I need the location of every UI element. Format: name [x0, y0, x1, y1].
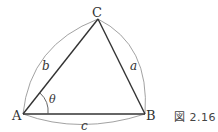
vertex-label-a: A	[12, 109, 21, 122]
vertex-label-c: C	[92, 6, 102, 19]
vertex-label-b: B	[146, 109, 156, 122]
figure-caption: 図 2.16	[174, 108, 216, 124]
side-label-c: c	[81, 120, 88, 132]
angle-label-theta: θ	[49, 94, 56, 105]
angle-arc-theta	[40, 93, 48, 114]
side-label-a: a	[130, 60, 137, 72]
side-label-b: b	[42, 60, 50, 72]
